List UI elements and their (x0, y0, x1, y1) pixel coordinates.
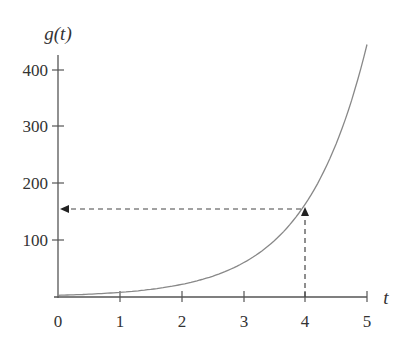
y-tick-label: 300 (23, 117, 49, 136)
x-tick-label: 2 (178, 312, 187, 331)
x-tick-label: 1 (116, 312, 125, 331)
x-tick-label: 4 (301, 312, 310, 331)
y-tick-label: 100 (23, 231, 49, 250)
x-tick-label: 5 (363, 312, 372, 331)
arrow-left-icon (60, 205, 69, 213)
exponential-chart: 400 300 200 100 0 1 2 3 4 5 g(t) t (0, 0, 400, 349)
y-axis-label: g(t) (44, 23, 71, 45)
x-tick-label: 0 (54, 312, 63, 331)
y-tick-label: 400 (23, 61, 49, 80)
g-curve (58, 45, 367, 296)
x-axis-label: t (383, 287, 389, 308)
x-tick-label: 3 (240, 312, 249, 331)
y-tick-label: 200 (23, 174, 49, 193)
